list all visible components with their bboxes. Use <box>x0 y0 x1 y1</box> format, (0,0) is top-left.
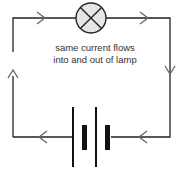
circuit-diagram: same current flows into and out of lamp <box>0 0 184 170</box>
caption: same current flows into and out of lamp <box>40 42 150 66</box>
circuit-svg <box>0 0 184 170</box>
caption-line-2: into and out of lamp <box>40 54 150 66</box>
battery-icon <box>72 107 110 167</box>
caption-line-1: same current flows <box>40 42 150 54</box>
lamp-icon <box>76 3 106 33</box>
wires <box>13 18 170 137</box>
